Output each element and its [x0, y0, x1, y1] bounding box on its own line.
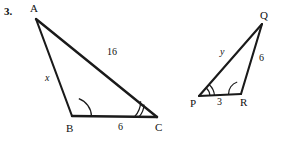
- angle-r-arc-1: [228, 82, 237, 94]
- large-triangle-abc: [36, 19, 157, 117]
- vertex-label-r: R: [240, 97, 247, 108]
- figure-canvas: [0, 0, 282, 146]
- angle-p-arc-1: [206, 88, 210, 96]
- small-triangle-pqr: [199, 24, 262, 96]
- geometry-figure: 3. A B C x 16 6 Q P R y 6 3: [0, 0, 282, 146]
- side-label-pq-y: y: [220, 47, 224, 57]
- vertex-label-a: A: [30, 3, 38, 14]
- side-label-ac-16: 16: [107, 47, 117, 57]
- side-bc-line: [72, 116, 157, 117]
- side-label-qr-6: 6: [259, 53, 264, 63]
- side-label-pr-3: 3: [217, 97, 222, 107]
- vertex-label-c: C: [155, 122, 162, 133]
- side-label-bc-6: 6: [118, 122, 123, 132]
- vertex-label-p: P: [190, 98, 196, 109]
- vertex-label-b: B: [66, 123, 73, 134]
- vertex-label-q: Q: [260, 10, 268, 21]
- side-pq-line: [199, 24, 262, 96]
- side-label-ab-x: x: [45, 73, 49, 83]
- angle-b-arc-1: [79, 99, 92, 117]
- problem-number: 3.: [4, 6, 12, 17]
